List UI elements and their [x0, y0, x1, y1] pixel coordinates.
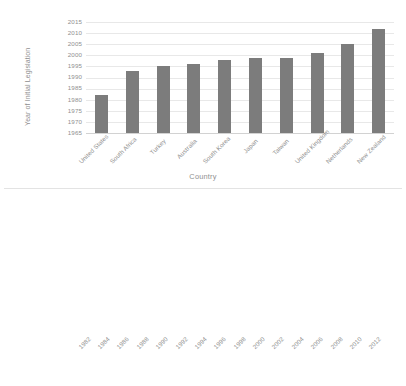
bar-chart-x-tick: United Kingdom	[294, 138, 321, 165]
bar-chart-x-tick: Japan	[232, 138, 259, 165]
bar-chart-y-tick: 1985	[68, 85, 82, 91]
bar-chart-figure: Year of Initial Legislation 196519701975…	[0, 0, 406, 190]
bar-chart-y-tick: 1990	[68, 74, 82, 80]
bar-chart-y-tick: 2015	[68, 19, 82, 25]
line-chart-x-tick: 1992	[166, 336, 189, 359]
bar-chart-gridline	[86, 22, 394, 23]
bar-chart-x-tick: Netherlands	[325, 138, 352, 165]
bar-chart-bar	[311, 53, 324, 133]
bar-chart-bar	[157, 66, 170, 133]
bar-chart-plot-area	[86, 22, 394, 133]
chart-page: Year of Initial Legislation 196519701975…	[0, 0, 406, 386]
line-chart-x-tick: 2002	[263, 336, 286, 359]
bar-chart-y-tick: 2000	[68, 52, 82, 58]
bar-chart-y-tick: 1970	[68, 119, 82, 125]
bar-chart-bar	[341, 44, 354, 133]
bar-chart-y-tick: 1995	[68, 63, 82, 69]
bar-chart-bar	[372, 29, 385, 133]
bar-chart-bar	[187, 64, 200, 133]
bar-chart-x-tick: New Zealand	[356, 138, 383, 165]
bar-chart-x-tick: South Korea	[202, 138, 229, 165]
bar-chart-bar	[280, 58, 293, 133]
line-chart-figure: Cumulative Proportion 0%10%20%30%40%50%6…	[0, 190, 406, 386]
bar-chart-bar	[249, 58, 262, 133]
bar-chart-bar	[95, 95, 108, 133]
line-chart-x-tick: 1986	[108, 336, 131, 359]
bar-chart-x-tick: Australia	[171, 138, 198, 165]
bar-chart-x-tick: Turkey	[140, 138, 167, 165]
line-chart-x-tick: 2008	[321, 336, 344, 359]
figure-divider	[4, 188, 402, 189]
bar-chart-y-tick: 2005	[68, 41, 82, 47]
bar-chart-bar	[218, 60, 231, 133]
bar-chart-bar	[126, 71, 139, 133]
bar-chart-y-tick: 1980	[68, 97, 82, 103]
bar-chart-x-tick: Taiwan	[263, 138, 290, 165]
bar-chart-y-tick: 2010	[68, 30, 82, 36]
bar-chart-x-axis-title: Country	[0, 172, 406, 181]
bar-chart-x-tick: United States	[78, 138, 105, 165]
bar-chart-x-tick: South Africa	[109, 138, 136, 165]
bar-chart-y-tick: 1975	[68, 108, 82, 114]
bar-chart-gridline	[86, 33, 394, 34]
bar-chart-y-tick-labels: 1965197019751980198519901995200020052010…	[30, 22, 82, 133]
bar-chart-gridline	[86, 133, 394, 134]
bar-chart-y-tick: 1965	[68, 130, 82, 136]
